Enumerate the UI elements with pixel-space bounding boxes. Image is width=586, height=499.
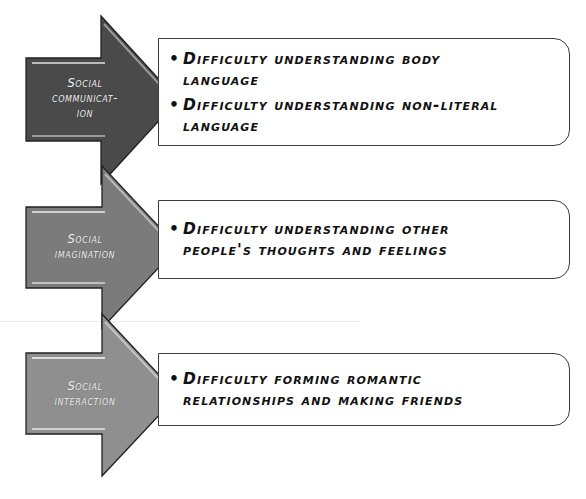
bullet-icon: • [169, 95, 180, 116]
bullet-item: • Difficulty forming romantic relationsh… [159, 369, 569, 411]
bullet-item: • Difficulty understanding other people'… [159, 219, 569, 261]
arrow-label-social-communication: Social communicat- ion [30, 76, 140, 121]
bullet-icon: • [169, 49, 180, 70]
bullet-text: Difficulty understanding body language [183, 50, 440, 89]
label-line: imagination [30, 247, 140, 262]
label-line: Social [30, 76, 140, 91]
bullet-text: Difficulty understanding non-literal lan… [183, 96, 498, 135]
bullet-icon: • [169, 369, 180, 390]
arrow-label-social-imagination: Social imagination [30, 232, 140, 262]
bullet-list: • Difficulty understanding body language… [159, 49, 569, 137]
bullet-list: • Difficulty forming romantic relationsh… [159, 369, 569, 411]
bullet-list: • Difficulty understanding other people'… [159, 219, 569, 261]
description-box-social-imagination: • Difficulty understanding other people'… [158, 200, 570, 279]
description-box-social-communication: • Difficulty understanding body language… [158, 38, 570, 146]
arrow-label-social-interaction: Social interaction [30, 379, 140, 409]
label-line: ion [30, 106, 140, 121]
bullet-item: • Difficulty understanding body language [159, 49, 569, 91]
bullet-item: • Difficulty understanding non-literal l… [159, 95, 569, 137]
bullet-text: Difficulty understanding other people's … [183, 220, 450, 259]
bullet-icon: • [169, 219, 180, 240]
label-line: Social [30, 232, 140, 247]
label-line: interaction [30, 394, 140, 409]
label-line: Social [30, 379, 140, 394]
description-box-social-interaction: • Difficulty forming romantic relationsh… [158, 353, 570, 426]
bullet-text: Difficulty forming romantic relationship… [183, 370, 463, 409]
label-line: communicat- [30, 91, 140, 106]
